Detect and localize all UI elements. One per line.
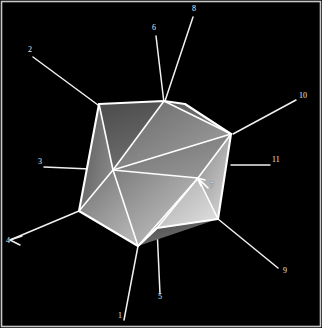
label-3: 3 — [38, 158, 42, 166]
label-7: 7 — [210, 182, 214, 190]
label-10: 10 — [299, 92, 307, 100]
label-11: 11 — [272, 156, 280, 164]
label-8: 8 — [192, 5, 196, 13]
icosahedron-drawing — [0, 0, 322, 328]
icosahedron-figure: 1 2 3 4 5 6 7 8 9 10 11 — [0, 0, 322, 328]
label-9: 9 — [283, 267, 287, 275]
label-5: 5 — [158, 293, 162, 301]
label-2: 2 — [28, 46, 32, 54]
label-6: 6 — [152, 24, 156, 32]
label-4: 4 — [6, 237, 10, 245]
label-1: 1 — [118, 312, 122, 320]
